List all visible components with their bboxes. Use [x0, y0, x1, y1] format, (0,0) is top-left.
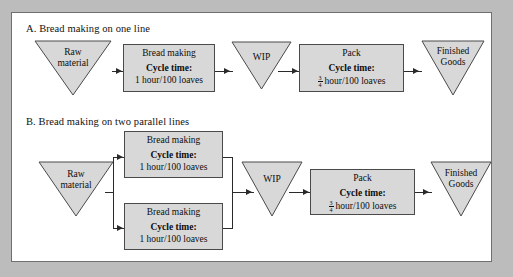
node-pack-a-value: hour/100 loaves: [325, 76, 386, 87]
node-pack-a-cycle-label: Cycle time:: [300, 63, 403, 74]
node-pack-b-value-row: 3 4 hour/100 loaves: [311, 200, 414, 213]
node-bread-making-b-top-value: 1 hour/100 loaves: [125, 162, 222, 173]
node-pack-a-fraction-denominator: 4: [318, 81, 323, 88]
node-pack-a: Pack Cycle time: 3 4 hour/100 loaves: [299, 44, 404, 92]
node-bread-making-b-bottom-cycle-label: Cycle time:: [125, 222, 222, 233]
node-bread-making-a: Bread making Cycle time: 1 hour/100 loav…: [123, 44, 215, 92]
arrowhead-a-raw-to-bread: [116, 68, 122, 74]
arrowhead-b-wip-to-pack: [303, 189, 309, 195]
arrowhead-b-split-bottom: [117, 225, 123, 231]
node-wip-b: WIP: [241, 161, 303, 217]
node-pack-a-fraction: 3 4: [318, 75, 323, 88]
node-pack-b-cycle-label: Cycle time:: [311, 188, 414, 199]
node-pack-b-fraction: 3 4: [329, 200, 334, 213]
node-bread-making-b-bottom: Bread making Cycle time: 1 hour/100 loav…: [124, 203, 223, 250]
node-pack-b-title: Pack: [311, 173, 414, 184]
node-finished-goods-b: Finished Goods: [430, 161, 492, 217]
node-bread-making-a-cycle-label: Cycle time:: [124, 63, 214, 74]
node-bread-making-b-top-title: Bread making: [125, 135, 222, 146]
node-bread-making-a-title: Bread making: [124, 48, 214, 59]
arrowhead-a-wip-to-pack: [292, 68, 298, 74]
node-raw-material-b: Raw material: [38, 161, 114, 217]
node-bread-making-a-value: 1 hour/100 loaves: [124, 75, 214, 86]
arrowhead-a-pack-to-finished: [413, 68, 419, 74]
node-wip-a: WIP: [231, 41, 292, 90]
node-pack-b: Pack Cycle time: 3 4 hour/100 loaves: [310, 169, 415, 215]
node-bread-making-b-bottom-title: Bread making: [125, 207, 222, 218]
node-pack-a-value-row: 3 4 hour/100 loaves: [300, 75, 403, 88]
section-a-title: A. Bread making on one line: [26, 23, 150, 34]
node-pack-b-value: hour/100 loaves: [336, 201, 397, 212]
node-pack-a-title: Pack: [300, 48, 403, 59]
figure-frame: A. Bread making on one line Raw material…: [11, 12, 492, 262]
connector-b-split-vertical: [113, 157, 114, 229]
node-finished-goods-a: Finished Goods: [421, 40, 485, 96]
node-bread-making-b-top-cycle-label: Cycle time:: [125, 150, 222, 161]
section-b-title: B. Bread making on two parallel lines: [26, 116, 189, 127]
figure-canvas: A. Bread making on one line Raw material…: [0, 0, 513, 277]
node-raw-material-a: Raw material: [34, 40, 112, 96]
node-bread-making-b-bottom-value: 1 hour/100 loaves: [125, 234, 222, 245]
arrowhead-b-pack-to-finished: [423, 189, 429, 195]
node-pack-b-fraction-denominator: 4: [329, 206, 334, 213]
arrowhead-b-split-top: [117, 154, 123, 160]
arrowhead-a-bread-to-wip: [224, 68, 230, 74]
node-bread-making-b-top: Bread making Cycle time: 1 hour/100 loav…: [124, 131, 223, 178]
connector-b-merge-vertical: [232, 157, 233, 229]
